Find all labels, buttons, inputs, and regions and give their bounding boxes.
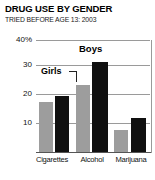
axis-right-spine <box>151 40 152 153</box>
category-label-alcohol: Alcohol <box>74 155 110 164</box>
ytick-label-40: 40% <box>2 35 32 44</box>
bar-boys-marijuana <box>131 118 146 152</box>
category-label-cigarettes: Cigarettes <box>30 155 74 164</box>
gridline-40 <box>36 40 150 41</box>
girls-leader-line <box>69 71 77 82</box>
drug-use-by-gender-chart: DRUG USE BY GENDER TRIED BEFORE AGE 13: … <box>0 0 155 180</box>
ytick-label-30: 30 <box>2 60 32 69</box>
bar-girls-marijuana <box>114 130 128 152</box>
category-label-marijuana: Marijuana <box>108 155 154 164</box>
axis-baseline <box>36 152 152 153</box>
bar-boys-cigarettes <box>55 96 69 152</box>
series-callout-boys: Boys <box>79 43 102 54</box>
bar-girls-alcohol <box>76 85 90 152</box>
bar-boys-alcohol <box>92 62 108 152</box>
plot-area: 40% 30 20 10 Girls Boys Cigarettes Alcoh… <box>0 0 155 180</box>
ytick-label-10: 10 <box>2 118 32 127</box>
series-callout-girls: Girls <box>41 66 62 76</box>
bar-girls-cigarettes <box>39 102 53 152</box>
ytick-label-20: 20 <box>2 89 32 98</box>
